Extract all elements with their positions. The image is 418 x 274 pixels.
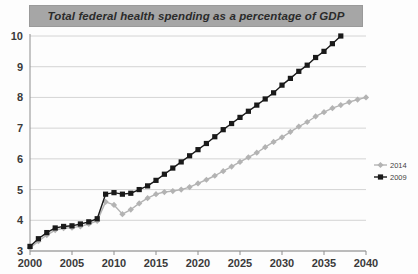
data-point-marker xyxy=(346,99,352,105)
y-axis-tick-labels: 345678910 xyxy=(11,30,24,257)
y-tick-label: 4 xyxy=(17,214,24,226)
x-tick-label: 2035 xyxy=(312,257,336,269)
data-point-marker xyxy=(178,186,184,192)
line-chart: 345678910 200020052010201520202025203020… xyxy=(0,28,418,274)
legend-item-2014: 2014 xyxy=(374,161,407,170)
legend-label: 2009 xyxy=(390,173,407,182)
legend-label: 2014 xyxy=(390,161,407,170)
data-point-marker xyxy=(27,244,32,249)
y-tick-label: 6 xyxy=(17,153,23,165)
data-series xyxy=(27,33,369,251)
data-point-marker xyxy=(221,127,226,132)
data-point-marker xyxy=(229,121,234,126)
data-point-marker xyxy=(53,225,58,230)
data-point-marker xyxy=(203,177,209,183)
data-point-marker xyxy=(330,41,335,46)
chart-legend: 20142009 xyxy=(374,161,407,182)
data-point-marker xyxy=(95,216,100,221)
data-point-marker xyxy=(103,192,108,197)
data-point-marker xyxy=(195,180,201,186)
x-tick-label: 2025 xyxy=(228,257,252,269)
data-point-marker xyxy=(212,134,217,139)
x-tick-label: 2015 xyxy=(144,257,168,269)
data-point-marker xyxy=(220,168,226,174)
data-point-marker xyxy=(377,162,383,168)
y-tick-label: 7 xyxy=(17,122,23,134)
x-tick-label: 2040 xyxy=(354,257,378,269)
x-axis-tick-labels: 200020052010201520202025203020352040 xyxy=(18,257,378,269)
x-tick-label: 2010 xyxy=(102,257,126,269)
series-2014 xyxy=(27,94,369,251)
data-point-marker xyxy=(69,223,74,228)
data-point-marker xyxy=(111,190,116,195)
chart-title: Total federal health spending as a perce… xyxy=(48,10,345,22)
data-point-marker xyxy=(279,83,284,88)
y-tick-label: 5 xyxy=(17,184,23,196)
legend-item-2009: 2009 xyxy=(374,173,407,182)
data-point-marker xyxy=(321,49,326,54)
series-line xyxy=(30,36,341,246)
data-point-marker xyxy=(204,141,209,146)
data-point-marker xyxy=(229,163,235,169)
series-2009 xyxy=(27,33,343,249)
y-tick-label: 3 xyxy=(17,245,23,257)
data-point-marker xyxy=(363,94,369,100)
y-tick-label: 10 xyxy=(11,30,23,42)
data-point-marker xyxy=(170,165,175,170)
data-point-marker xyxy=(78,221,83,226)
data-point-marker xyxy=(86,219,91,224)
chart-screenshot: Total federal health spending as a perce… xyxy=(0,0,418,274)
chart-plot-container: 345678910 200020052010201520202025203020… xyxy=(0,28,418,274)
data-point-marker xyxy=(271,90,276,95)
data-point-marker xyxy=(153,191,159,197)
data-point-marker xyxy=(170,188,176,194)
x-tick-label: 2000 xyxy=(18,257,42,269)
data-point-marker xyxy=(288,76,293,81)
data-point-marker xyxy=(254,103,259,108)
data-point-marker xyxy=(187,153,192,158)
x-tick-label: 2005 xyxy=(60,257,84,269)
data-point-marker xyxy=(338,102,344,108)
data-point-marker xyxy=(36,236,41,241)
data-point-marker xyxy=(313,55,318,60)
chart-title-bar: Total federal health spending as a perce… xyxy=(29,5,363,27)
y-tick-label: 8 xyxy=(17,91,23,103)
x-tick-label: 2030 xyxy=(270,257,294,269)
data-point-marker xyxy=(245,154,251,160)
data-point-marker xyxy=(212,173,218,179)
data-point-marker xyxy=(153,178,158,183)
data-point-marker xyxy=(338,33,343,38)
y-tick-label: 9 xyxy=(17,61,23,73)
data-point-marker xyxy=(305,63,310,68)
data-point-marker xyxy=(329,105,335,111)
data-point-marker xyxy=(162,172,167,177)
x-tick-label: 2020 xyxy=(186,257,210,269)
data-point-marker xyxy=(120,192,125,197)
data-point-marker xyxy=(321,109,327,115)
data-point-marker xyxy=(237,159,243,165)
data-point-marker xyxy=(179,159,184,164)
data-point-marker xyxy=(145,183,150,188)
data-point-marker xyxy=(128,191,133,196)
data-point-marker xyxy=(61,224,66,229)
data-point-marker xyxy=(263,96,268,101)
gridlines xyxy=(30,36,366,251)
data-point-marker xyxy=(296,69,301,74)
data-point-marker xyxy=(237,115,242,120)
data-point-marker xyxy=(246,109,251,114)
data-point-marker xyxy=(378,174,383,179)
data-point-marker xyxy=(195,147,200,152)
data-point-marker xyxy=(44,230,49,235)
data-point-marker xyxy=(137,187,142,192)
